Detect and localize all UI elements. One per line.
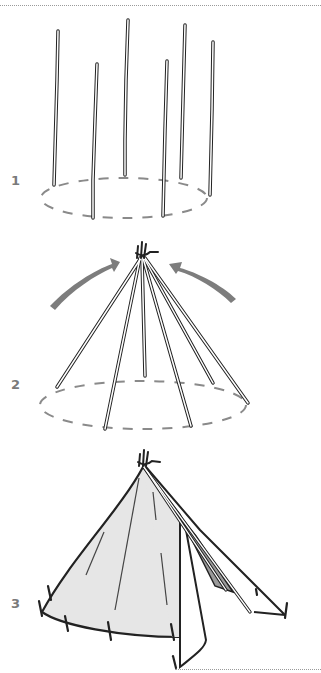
step-1-dashed-circle: [41, 178, 207, 218]
step-2-dashed-circle: [40, 381, 246, 429]
step-3-teepee-illustration: [39, 450, 287, 668]
step-2-top-knot: [136, 242, 158, 258]
step-1-poles: [54, 20, 213, 218]
step-1-poles-illustration: [41, 20, 213, 218]
teepee-illustration: [0, 0, 321, 673]
step-2-tied-poles-illustration: [40, 242, 248, 429]
step-3-top-knot: [138, 450, 160, 466]
